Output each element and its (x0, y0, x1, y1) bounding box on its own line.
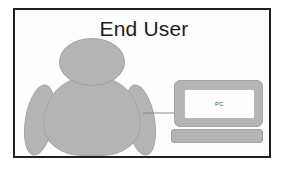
person-head-icon (59, 38, 125, 86)
pc-screen-label: PC (215, 101, 224, 108)
pc-monitor-icon: PC (174, 80, 263, 127)
pc-screen: PC (184, 89, 255, 119)
pc-keyboard-icon (171, 129, 263, 143)
pc-workstation: PC (171, 80, 267, 156)
page-title: End User (15, 17, 273, 40)
end-user-person (21, 38, 161, 156)
person-torso-icon (43, 77, 141, 156)
diagram-frame: End User PC (13, 8, 271, 158)
diagram-canvas: End User PC (0, 0, 286, 174)
